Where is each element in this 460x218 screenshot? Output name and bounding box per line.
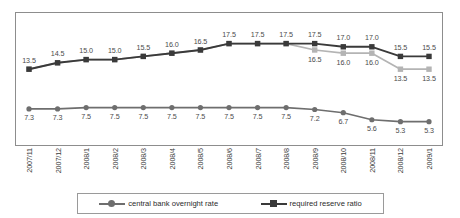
x-axis-tick-label: 2008/9: [311, 148, 320, 169]
data-point-label: 16.0: [165, 40, 179, 49]
data-point-label: 15.0: [108, 46, 122, 55]
data-point-label: 7.5: [110, 112, 120, 121]
data-point-label: 5.3: [424, 126, 434, 135]
legend-item-label: required reserve ratio: [290, 199, 362, 208]
legend-square-marker-icon: [261, 199, 287, 208]
data-point-label: 7.5: [138, 112, 148, 121]
legend-circle-marker-icon: [99, 199, 125, 208]
data-point-label: 16.5: [308, 55, 322, 64]
legend-item: central bank overnight rate: [99, 199, 218, 208]
data-point-label: 13.5: [422, 74, 436, 83]
x-axis-tick-label: 2009/1: [425, 148, 434, 169]
line-chart: 16.516.016.013.513.513.514.515.015.015.5…: [0, 0, 460, 218]
data-point-label: 14.5: [51, 49, 65, 58]
x-axis-tick-label: 2008/12: [396, 148, 405, 173]
data-point-label: 17.5: [308, 30, 322, 39]
data-point-label: 17.5: [251, 30, 265, 39]
x-axis-tick-label: 2007/11: [25, 148, 34, 173]
data-point-label: 16.5: [194, 37, 208, 46]
data-point-label: 7.3: [24, 113, 34, 122]
data-point-label: 5.6: [367, 124, 377, 133]
data-point-label: 13.5: [22, 56, 36, 65]
x-axis-tick-label: 2008/11: [368, 148, 377, 173]
data-point-label: 6.7: [338, 117, 348, 126]
data-point-label: 7.5: [253, 112, 263, 121]
x-axis-tick-label: 2007/12: [54, 148, 63, 173]
data-point-label: 16.0: [336, 58, 350, 67]
data-point-label: 7.2: [310, 114, 320, 123]
x-axis-tick-label: 2008/7: [254, 148, 263, 169]
data-point-label: 15.5: [136, 43, 150, 52]
legend-item-label: central bank overnight rate: [128, 199, 218, 208]
x-axis-tick-label: 2008/1: [82, 148, 91, 169]
data-point-label: 15.5: [394, 43, 408, 52]
data-point-label: 7.5: [224, 112, 234, 121]
data-point-label: 7.3: [53, 113, 63, 122]
legend-item: required reserve ratio: [261, 199, 362, 208]
data-point-label: 7.5: [281, 112, 291, 121]
data-point-label: 15.5: [422, 43, 436, 52]
data-point-label: 7.5: [81, 112, 91, 121]
x-axis-tick-labels: 2007/112007/122008/12008/22008/32008/420…: [15, 148, 443, 192]
data-point-label: 7.5: [196, 112, 206, 121]
data-point-label: 17.0: [336, 33, 350, 42]
x-axis-tick-label: 2008/4: [168, 148, 177, 169]
data-point-label: 17.5: [279, 30, 293, 39]
x-axis-tick-label: 2008/5: [196, 148, 205, 169]
data-point-label: 17.0: [365, 33, 379, 42]
data-point-label: 16.0: [365, 58, 379, 67]
x-axis-tick-label: 2008/10: [339, 148, 348, 173]
data-point-label: 15.0: [79, 46, 93, 55]
data-point-label: 17.5: [222, 30, 236, 39]
x-axis-tick-label: 2008/3: [139, 148, 148, 169]
x-axis-tick-label: 2008/2: [111, 148, 120, 169]
chart-legend: central bank overnight raterequired rese…: [77, 193, 384, 214]
data-point-label: 5.3: [396, 126, 406, 135]
data-point-label: 7.5: [167, 112, 177, 121]
x-axis-tick-label: 2008/8: [282, 148, 291, 169]
x-axis-tick-label: 2008/6: [225, 148, 234, 169]
data-point-label: 13.5: [394, 74, 408, 83]
